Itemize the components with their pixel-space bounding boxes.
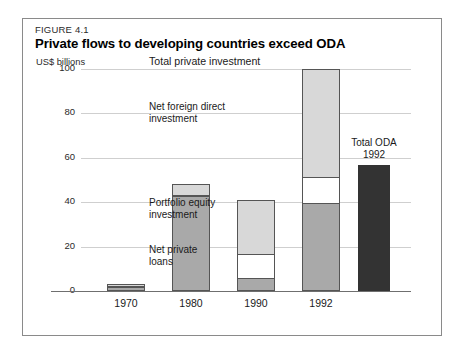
x-label-1980: 1980 bbox=[179, 297, 202, 309]
y-tick-20: 20 bbox=[64, 240, 75, 251]
y-tick-60: 60 bbox=[64, 151, 75, 162]
figure-frame: FIGURE 4.1 Private flows to developing c… bbox=[22, 18, 442, 336]
bar-total-oda-1992[interactable] bbox=[358, 165, 390, 292]
bar-1990[interactable] bbox=[237, 200, 275, 291]
bar-1992[interactable] bbox=[302, 69, 340, 291]
x-label-1990: 1990 bbox=[244, 297, 267, 309]
segment-net-private-loans bbox=[303, 204, 339, 290]
annotation-portfolio-equity-investment: Portfolio equity investment bbox=[149, 197, 215, 220]
bar-1970[interactable] bbox=[107, 284, 145, 291]
segment-portfolio-equity-investment bbox=[303, 178, 339, 204]
plot-area: 100 80 60 40 20 0 1970 1980 1990 bbox=[81, 69, 411, 291]
y-tick-100: 100 bbox=[59, 62, 75, 73]
y-tick-40: 40 bbox=[64, 195, 75, 206]
x-label-1992: 1992 bbox=[309, 297, 332, 309]
x-label-1970: 1970 bbox=[114, 297, 137, 309]
gridline-100 bbox=[81, 69, 411, 70]
y-tick-80: 80 bbox=[64, 106, 75, 117]
segment-net-foreign-direct-investment bbox=[238, 201, 274, 255]
figure-title: Private flows to developing countries ex… bbox=[35, 36, 345, 51]
y-tick-0: 0 bbox=[70, 284, 75, 295]
gridline-80 bbox=[81, 113, 411, 114]
figure-number: FIGURE 4.1 bbox=[35, 24, 89, 35]
segment-net-private-loans bbox=[238, 279, 274, 290]
segment-net-private-loans bbox=[108, 288, 144, 290]
annotation-total-private-investment: Total private investment bbox=[149, 56, 260, 68]
x-axis-line bbox=[51, 291, 411, 292]
annotation-total-oda: Total ODA 1992 bbox=[335, 137, 413, 161]
segment-net-foreign-direct-investment bbox=[173, 185, 209, 196]
annotation-net-private-loans: Net private loans bbox=[149, 244, 197, 267]
annotation-net-foreign-direct-investment: Net foreign direct investment bbox=[149, 101, 225, 124]
segment-net-foreign-direct-investment bbox=[303, 70, 339, 178]
segment-portfolio-equity-investment bbox=[238, 255, 274, 279]
